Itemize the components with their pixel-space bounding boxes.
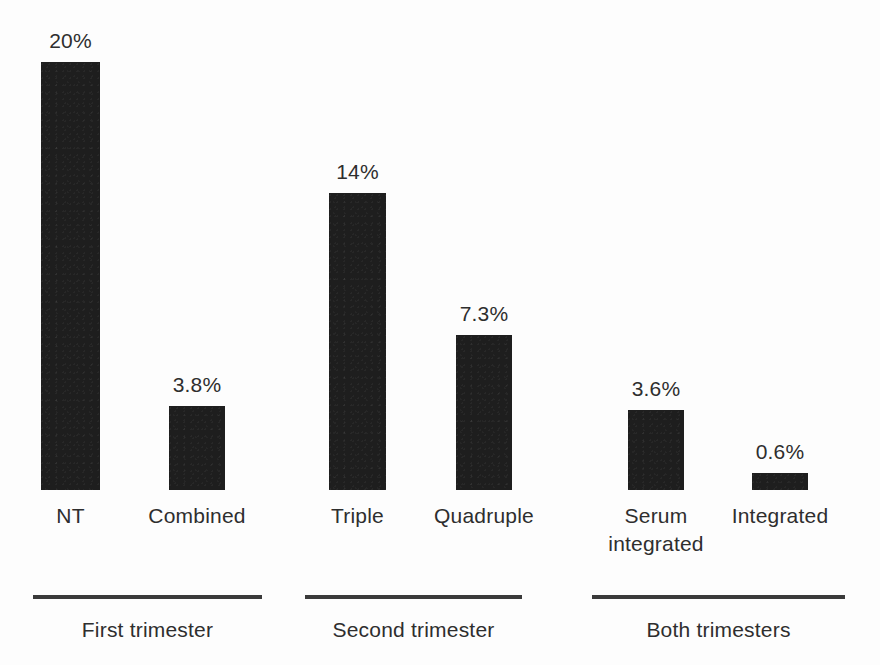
bar-quadruple [456,335,512,490]
bar-slot-quadruple: 7.3% Quadruple [456,335,512,490]
group-caption-both-trimesters: Both trimesters [582,616,855,644]
bar-value-serum-integrated: 3.6% [588,377,724,401]
bar-label-combined: Combined [109,502,285,530]
bar-chart-plot-area: 20% NT 3.8% Combined 14% Triple 7.3% Qua [0,0,880,665]
group-caption-first-trimester: First trimester [33,616,262,644]
bar-slot-nt: 20% NT [41,62,100,490]
bar-triple [329,193,386,490]
bar-label-line: integrated [568,530,744,558]
bar-integrated [752,473,808,490]
group-rule-second-trimester [305,595,522,599]
bar-slot-integrated: 0.6% Integrated [752,473,808,490]
bar-combined [169,406,225,490]
group-rule-both-trimesters [592,595,845,599]
bar-label-line: Combined [109,502,285,530]
bar-slot-combined: 3.8% Combined [169,406,225,490]
bar-label-integrated: Integrated [692,502,868,530]
bar-nt [41,62,100,490]
group-caption-second-trimester: Second trimester [295,616,532,644]
bar-label-quadruple: Quadruple [396,502,572,530]
bar-value-integrated: 0.6% [712,440,848,464]
bar-label-line: Quadruple [396,502,572,530]
bar-value-nt: 20% [1,29,140,53]
chart-page: 20% NT 3.8% Combined 14% Triple 7.3% Qua [0,0,880,665]
group-rule-first-trimester [33,595,262,599]
bar-serum-integrated [628,410,684,490]
bar-value-combined: 3.8% [129,373,265,397]
bar-value-quadruple: 7.3% [416,302,552,326]
bar-slot-triple: 14% Triple [329,193,386,490]
bar-slot-serum-integrated: 3.6% Serum integrated [628,410,684,490]
bar-label-line: Integrated [692,502,868,530]
bar-value-triple: 14% [289,160,426,184]
